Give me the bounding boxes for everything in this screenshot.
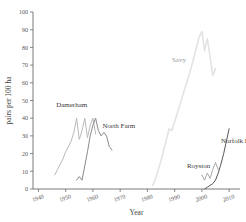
line-chart: 0102030405060708090100194019501960197019… <box>0 0 246 222</box>
x-tick-label: 1950 <box>58 193 71 202</box>
y-tick-label: 90 <box>22 27 28 33</box>
y-tick-label: 60 <box>22 80 28 86</box>
series-label-savy: Savy <box>172 56 187 64</box>
y-tick-label: 40 <box>22 115 28 121</box>
y-tick-label: 50 <box>22 98 28 104</box>
y-tick-label: 30 <box>22 133 28 139</box>
x-tick-label: 2010 <box>222 193 235 202</box>
y-tick-label: 10 <box>22 169 28 175</box>
series-label-north-farm: North Farm <box>102 122 135 130</box>
series-line-damerham <box>55 118 96 175</box>
series-label-damerham: Damerham <box>56 101 88 109</box>
x-tick-label: 1990 <box>167 193 180 202</box>
x-tick-label: 1940 <box>31 193 44 202</box>
y-axis-title: pairs per 100 ha <box>4 76 13 125</box>
chart-container: 0102030405060708090100194019501960197019… <box>0 0 246 222</box>
x-axis-title: Year <box>130 208 144 217</box>
y-tick-label: 20 <box>22 151 28 157</box>
x-tick-label: 2000 <box>195 193 208 202</box>
series-label-royston: Royston <box>187 162 211 170</box>
x-tick-label: 1980 <box>140 193 153 202</box>
series-labels: DamerhamNorth FarmSavyRoystonNorfolk Est… <box>56 56 246 170</box>
y-tick-label: 70 <box>22 62 28 68</box>
y-tick-label: 80 <box>22 45 28 51</box>
y-tick-label: 100 <box>19 9 28 15</box>
x-tick-label: 1970 <box>113 193 126 202</box>
series-label-norfolk-estate: Norfolk Estate <box>221 137 246 145</box>
y-tick-label: 0 <box>25 186 28 192</box>
x-tick-label: 1960 <box>86 193 99 202</box>
